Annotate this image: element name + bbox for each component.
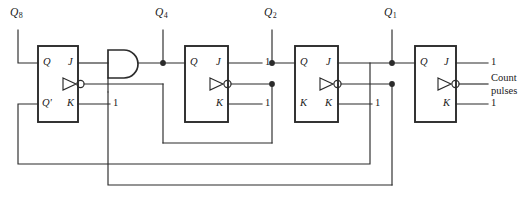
clock-triangle-q2	[320, 78, 333, 90]
logic-one-q1-k: 1	[491, 97, 496, 108]
pin-label-q8-qnot: Q'	[42, 97, 52, 108]
feedback-rail-q8-not	[18, 63, 370, 164]
output-tap-q2	[272, 30, 295, 63]
pin-label-q8-j: J	[68, 56, 73, 67]
junction-dot-clock-q2	[269, 81, 275, 87]
pin-label-q1-q: Q	[420, 56, 428, 67]
pin-label-q8-q: Q	[43, 56, 51, 67]
logic-one-q4-j: 1	[265, 56, 270, 67]
pin-label-q2-qnot: K	[300, 97, 307, 108]
pin-label-q1-k: K	[443, 97, 450, 108]
pin-label-q4-k: K	[216, 97, 223, 108]
pin-label-q2-k: K	[325, 97, 332, 108]
clock-triangle-q4	[210, 78, 223, 90]
output-label-q8: Q8	[10, 6, 23, 20]
and-gate-body	[108, 50, 138, 78]
feedback-rail-and-input	[108, 92, 392, 185]
clock-triangle-q1	[438, 78, 451, 90]
schematic-svg	[0, 0, 520, 200]
clock-triangle-q8	[63, 78, 76, 90]
output-label-q4: Q4	[155, 6, 168, 20]
junction-dot-q1	[389, 60, 395, 66]
pin-label-q2-q: Q	[300, 56, 308, 67]
output-tap-q1	[392, 30, 415, 63]
junction-dot-q4	[160, 60, 166, 66]
pin-label-q8-k: K	[67, 97, 74, 108]
logic-one-q8-k: 1	[113, 97, 118, 108]
count-pulses-label-line2: pulses	[491, 85, 517, 96]
pin-label-q4-q: Q	[190, 56, 198, 67]
output-label-q2: Q2	[264, 6, 277, 20]
logic-one-q4-k: 1	[265, 97, 270, 108]
pin-label-q2-j: J	[326, 56, 331, 67]
junction-dot-clock-q1	[389, 81, 395, 87]
output-tap-q8	[18, 30, 38, 63]
pin-label-q1-j: J	[444, 56, 449, 67]
circuit-diagram-canvas: Q8 Q4 Q2 Q1 Q Q' J K 1 Q J K 1 1 Q K J K…	[0, 0, 520, 200]
output-label-q1: Q1	[384, 6, 397, 20]
count-pulses-label-line1: Count	[491, 72, 517, 83]
logic-one-q1-j: 1	[491, 56, 496, 67]
pin-label-q4-j: J	[216, 56, 221, 67]
logic-one-q2-k: 1	[375, 97, 380, 108]
